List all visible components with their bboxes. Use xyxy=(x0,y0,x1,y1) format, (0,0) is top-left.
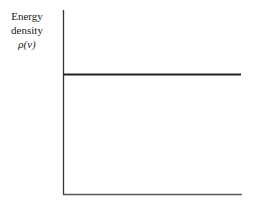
plot-area xyxy=(0,0,253,206)
